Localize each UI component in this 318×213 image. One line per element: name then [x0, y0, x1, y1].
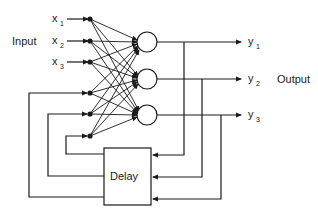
input-label: Input [12, 35, 36, 47]
neuron-1 [137, 32, 157, 52]
network-diagram: Input Output x 1 x 2 x 3 y 1 y 2 y 3 [0, 0, 318, 213]
svg-text:y: y [248, 35, 254, 47]
svg-text:y: y [248, 108, 254, 120]
distribution-nodes [87, 16, 92, 138]
input-x3: x 3 [52, 55, 64, 70]
feedback-tap-y2 [153, 79, 202, 177]
delay-label: Delay [110, 170, 139, 182]
svg-text:3: 3 [256, 116, 260, 123]
feedback-tap-y1 [153, 42, 184, 155]
svg-text:1: 1 [256, 43, 260, 50]
output-y3: y 3 [248, 108, 260, 123]
neuron-3 [137, 105, 157, 125]
input-x1: x 1 [52, 12, 64, 27]
feedback-tap-y3 [153, 115, 221, 199]
svg-text:x: x [52, 34, 58, 46]
svg-text:1: 1 [60, 20, 64, 27]
input-x2: x 2 [52, 34, 64, 49]
svg-text:2: 2 [256, 80, 260, 87]
feedback-return-3 [66, 136, 104, 154]
svg-text:3: 3 [60, 63, 64, 70]
svg-text:2: 2 [60, 42, 64, 49]
svg-text:y: y [248, 72, 254, 84]
output-y1: y 1 [248, 35, 260, 50]
output-label: Output [277, 73, 310, 85]
neuron-2 [137, 69, 157, 89]
weight-connections [90, 19, 139, 136]
svg-text:x: x [52, 55, 58, 67]
svg-text:x: x [52, 12, 58, 24]
output-y2: y 2 [248, 72, 260, 87]
feedback-return-2 [48, 114, 104, 176]
